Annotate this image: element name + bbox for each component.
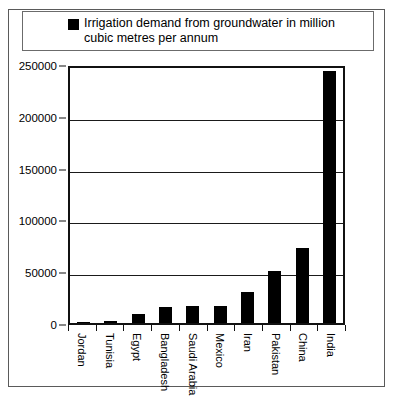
y-axis-tick-mark — [59, 221, 66, 222]
x-axis-tick-label: Saudi Arabia — [187, 333, 199, 395]
x-axis-tick-mark — [345, 325, 346, 331]
x-axis-labels: JordanTunisiaEgyptBangladeshSaudi Arabia… — [68, 331, 345, 397]
x-axis-tick-label: Jordan — [76, 333, 88, 367]
bar-group — [70, 68, 343, 323]
legend-label: Irrigation demand from groundwater in mi… — [84, 16, 346, 46]
bar — [77, 322, 90, 323]
x-label-slot: Pakistan — [262, 331, 290, 397]
x-label-slot: China — [290, 331, 318, 397]
x-axis-tick-label: Egypt — [131, 333, 143, 361]
x-label-slot: Saudi Arabia — [179, 331, 207, 397]
x-axis-tick-label: Iran — [242, 333, 254, 352]
bar — [186, 306, 199, 323]
chart-figure: Irrigation demand from groundwater in mi… — [0, 0, 393, 400]
y-axis-tick-label: 200000 — [19, 112, 57, 124]
y-axis-tick-mark — [59, 66, 66, 67]
x-label-slot: Bangladesh — [151, 331, 179, 397]
x-axis-tick-label: China — [297, 333, 309, 362]
bar — [159, 307, 172, 323]
bar — [241, 292, 254, 323]
bar — [214, 306, 227, 323]
y-axis-tick-label: 150000 — [19, 164, 57, 176]
bar-slot — [179, 68, 206, 323]
bar — [323, 71, 336, 323]
x-axis-tick-label: Mexico — [214, 333, 226, 368]
bar-slot — [70, 68, 97, 323]
x-label-slot: India — [317, 331, 345, 397]
y-axis-tick-mark — [59, 117, 66, 118]
y-axis-tick-mark — [59, 325, 66, 326]
x-label-slot: Mexico — [207, 331, 235, 397]
x-label-slot: Iran — [234, 331, 262, 397]
bar-slot — [288, 68, 315, 323]
bar — [268, 271, 281, 323]
bar-slot — [234, 68, 261, 323]
y-axis-tick-mark — [59, 273, 66, 274]
bar-slot — [206, 68, 233, 323]
y-axis-tick-label: 250000 — [19, 60, 57, 72]
bar — [104, 321, 117, 323]
x-label-slot: Egypt — [123, 331, 151, 397]
bar — [296, 248, 309, 323]
bar-slot — [152, 68, 179, 323]
y-axis-tick-label: 50000 — [25, 267, 57, 279]
x-label-slot: Tunisia — [96, 331, 124, 397]
bar-slot — [125, 68, 152, 323]
bar — [132, 314, 145, 323]
y-axis-tick-label: 0 — [51, 319, 57, 331]
plot-area — [68, 66, 345, 325]
bar-slot — [261, 68, 288, 323]
legend-swatch-icon — [68, 19, 79, 30]
cut-off-heading — [120, 0, 320, 6]
x-axis-tick-label: Pakistan — [270, 333, 282, 375]
y-axis-tick-mark — [59, 169, 66, 170]
y-axis-tick-label: 100000 — [19, 215, 57, 227]
legend-label-line1: Irrigation demand from groundwater in — [84, 16, 296, 30]
chart-legend: Irrigation demand from groundwater in mi… — [22, 11, 374, 51]
x-axis-tick-label: India — [325, 333, 337, 357]
x-axis-tick-label: Bangladesh — [159, 333, 171, 391]
y-axis: 050000100000150000200000250000 — [0, 66, 66, 325]
bar-slot — [316, 68, 343, 323]
x-axis-tick-label: Tunisia — [104, 333, 116, 368]
bar-slot — [97, 68, 124, 323]
x-label-slot: Jordan — [68, 331, 96, 397]
